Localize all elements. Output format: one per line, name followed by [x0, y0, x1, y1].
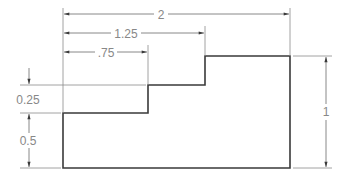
dimension-label-025: 0.25 — [16, 93, 40, 107]
dimension-label-125: 1.25 — [114, 27, 138, 41]
dimension-label-1: 1 — [323, 105, 330, 119]
technical-drawing: 2 1.25 .75 0.25 0.5 1 — [0, 0, 338, 177]
dimension-label-2: 2 — [158, 8, 165, 22]
dimension-label-05: 0.5 — [20, 134, 37, 148]
step-profile-outline — [63, 56, 290, 168]
dimension-label-075: .75 — [98, 46, 115, 60]
